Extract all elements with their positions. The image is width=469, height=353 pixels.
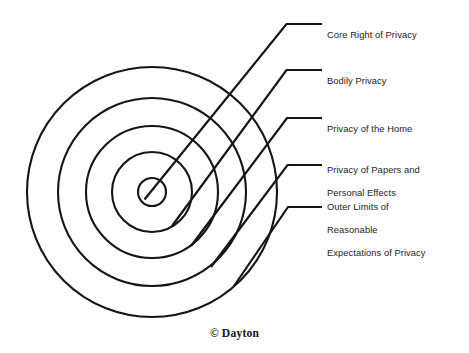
label-bodily-privacy-line-1: Bodily Privacy xyxy=(327,75,465,87)
label-outer-limits-line-2: Reasonable xyxy=(327,224,465,236)
labels-layer: Core Right of Privacy Bodily Privacy Pri… xyxy=(0,0,469,353)
label-outer-limits-line-3: Expectations of Privacy xyxy=(327,247,465,259)
label-outer-limits-line-1: Outer Limits of xyxy=(327,201,465,213)
privacy-circles-diagram: Core Right of Privacy Bodily Privacy Pri… xyxy=(0,0,469,353)
copyright-credit: © Dayton xyxy=(0,327,469,340)
label-bodily-privacy: Bodily Privacy xyxy=(327,63,465,98)
label-core-right-of-privacy-line-1: Core Right of Privacy xyxy=(327,29,465,41)
label-outer-limits-of-reasonable-expectations-of-privacy: Outer Limits of Reasonable Expectations … xyxy=(327,189,465,270)
label-privacy-of-the-home-line-1: Privacy of the Home xyxy=(327,123,465,135)
label-privacy-of-papers-line-1: Privacy of Papers and xyxy=(327,164,465,176)
label-core-right-of-privacy: Core Right of Privacy xyxy=(327,17,465,52)
label-privacy-of-the-home: Privacy of the Home xyxy=(327,111,465,146)
